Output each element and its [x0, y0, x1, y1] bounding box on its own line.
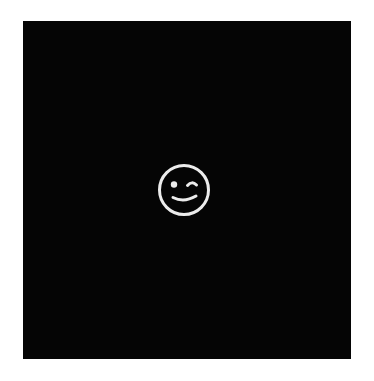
- canvas: Winking face: [0, 0, 374, 381]
- icon-label: Winking face: [157, 217, 158, 218]
- winking-face-icon: Winking face: [157, 163, 211, 217]
- dark-tile: Winking face: [23, 21, 351, 359]
